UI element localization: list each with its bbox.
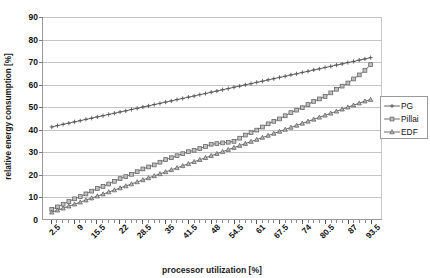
data-point-marker: [283, 74, 287, 78]
legend-item: PG: [383, 99, 427, 112]
data-point-marker: [289, 73, 293, 77]
data-point-marker: [141, 105, 145, 109]
data-point-marker: [340, 62, 344, 66]
data-point-marker: [363, 69, 367, 73]
data-point-marker: [164, 158, 168, 162]
data-point-marker: [306, 103, 310, 107]
data-point-marker: [340, 84, 344, 88]
data-point-marker: [232, 85, 236, 89]
legend-marker-icon: [383, 126, 401, 138]
data-point-marker: [129, 107, 133, 111]
y-axis-tick-labels: 0102030405060708090: [16, 0, 40, 232]
data-point-marker: [277, 75, 281, 79]
data-point-marker: [50, 125, 54, 129]
chart-legend: PGPillaiEDF: [380, 96, 428, 139]
plot-area: [42, 17, 382, 220]
data-point-marker: [357, 58, 361, 62]
data-point-marker: [209, 90, 213, 94]
data-point-marker: [152, 163, 156, 167]
y-axis-title: relative energy consumption [%]: [0, 0, 16, 232]
data-point-marker: [300, 106, 304, 110]
y-axis-tick-label: 60: [29, 80, 38, 90]
data-point-marker: [158, 160, 162, 164]
data-point-marker: [363, 57, 367, 61]
data-point-marker: [61, 122, 65, 126]
legend-label: Pillai: [401, 113, 419, 125]
data-point-marker: [112, 179, 116, 183]
data-point-marker: [67, 121, 71, 125]
data-point-marker: [67, 200, 71, 204]
data-point-marker: [312, 100, 316, 104]
legend-marker-icon: [383, 100, 401, 112]
y-axis-tick-label: 20: [29, 170, 38, 180]
y-axis-tick-label: 10: [29, 192, 38, 202]
x-axis-tick-labels: 2.5915.52228.53541.54854.56167.57480.587…: [42, 222, 382, 256]
data-point-marker: [352, 77, 356, 81]
data-point-marker: [169, 99, 173, 103]
data-point-marker: [101, 114, 105, 118]
data-point-marker: [204, 145, 208, 149]
data-point-marker: [226, 140, 230, 144]
data-point-marker: [118, 110, 122, 114]
data-point-marker: [186, 95, 190, 99]
data-point-marker: [192, 94, 196, 98]
data-point-marker: [260, 79, 264, 83]
data-point-marker: [124, 175, 128, 179]
data-point-marker: [203, 91, 207, 95]
data-point-marker: [124, 109, 128, 113]
data-point-marker: [220, 88, 224, 92]
data-point-marker: [346, 81, 350, 85]
data-point-marker: [130, 172, 134, 176]
data-point-marker: [294, 72, 298, 76]
y-axis-tick-label: 80: [29, 35, 38, 45]
data-point-marker: [187, 150, 191, 154]
data-point-marker: [249, 82, 253, 86]
data-point-marker: [368, 97, 372, 101]
data-point-marker: [55, 124, 59, 128]
data-point-marker: [272, 77, 276, 81]
data-point-marker: [266, 122, 270, 126]
y-axis-tick-label: 40: [29, 125, 38, 135]
data-point-marker: [73, 197, 77, 201]
data-point-marker: [72, 120, 76, 124]
data-point-marker: [283, 114, 287, 118]
data-point-marker: [181, 96, 185, 100]
data-point-marker: [323, 95, 327, 99]
legend-label: EDF: [401, 126, 418, 138]
data-point-marker: [255, 128, 259, 132]
data-point-marker: [90, 116, 94, 120]
data-point-marker: [306, 69, 310, 73]
data-point-marker: [317, 97, 321, 101]
y-axis-tick-label: 50: [29, 102, 38, 112]
data-point-marker: [317, 67, 321, 71]
y-axis-tick-label: 0: [33, 215, 38, 225]
data-point-marker: [152, 102, 156, 106]
data-point-marker: [192, 148, 196, 152]
data-point-marker: [147, 165, 151, 169]
data-point-marker: [272, 119, 276, 123]
data-point-marker: [289, 111, 293, 115]
data-point-marker: [312, 68, 316, 72]
data-point-marker: [135, 170, 139, 174]
data-point-marker: [95, 187, 99, 191]
data-point-marker: [226, 87, 230, 91]
data-point-marker: [84, 117, 88, 121]
data-point-marker: [346, 60, 350, 64]
data-point-marker: [118, 177, 122, 181]
data-point-marker: [209, 142, 213, 146]
data-point-marker: [295, 108, 299, 112]
data-point-marker: [215, 89, 219, 93]
data-point-marker: [390, 117, 394, 121]
data-point-marker: [243, 83, 247, 87]
data-point-marker: [357, 73, 361, 77]
data-point-marker: [238, 84, 242, 88]
data-point-marker: [261, 125, 265, 129]
data-point-marker: [90, 189, 94, 193]
y-axis-tick-label: 90: [29, 12, 38, 22]
data-point-marker: [164, 100, 168, 104]
data-point-marker: [175, 154, 179, 158]
data-point-marker: [329, 64, 333, 68]
y-axis-title-text: relative energy consumption [%]: [4, 53, 13, 179]
data-point-marker: [351, 59, 355, 63]
data-point-marker: [181, 152, 185, 156]
